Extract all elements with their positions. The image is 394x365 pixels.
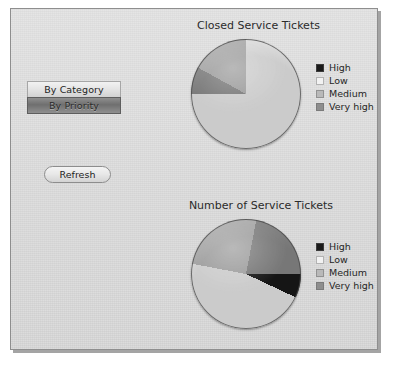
pie-slices-number bbox=[191, 219, 301, 329]
chart-title-number-of-service-tickets: Number of Service Tickets bbox=[161, 199, 361, 212]
legend-swatch-high bbox=[316, 64, 324, 72]
legend-label-high: High bbox=[329, 241, 351, 252]
app-window: By Category By Priority Refresh Closed S… bbox=[0, 0, 394, 365]
grouping-toggle-group[interactable]: By Category By Priority bbox=[27, 81, 121, 114]
legend-item-low: Low bbox=[316, 253, 374, 266]
toggle-by-category[interactable]: By Category bbox=[27, 81, 121, 98]
legend-swatch-high bbox=[316, 243, 324, 251]
pie-closed-service-tickets bbox=[191, 39, 301, 149]
legend-item-high: High bbox=[316, 61, 374, 74]
chart-closed-service-tickets: Closed Service Tickets High Low Medium bbox=[161, 13, 376, 173]
legend-swatch-very-high bbox=[316, 103, 324, 111]
legend-item-very-high: Very high bbox=[316, 100, 374, 113]
legend-item-medium: Medium bbox=[316, 266, 374, 279]
chart-number-of-service-tickets: Number of Service Tickets High Low Mediu… bbox=[161, 194, 376, 349]
legend-number-of-service-tickets: High Low Medium Very high bbox=[316, 240, 374, 292]
legend-label-very-high: Very high bbox=[329, 280, 374, 291]
refresh-button[interactable]: Refresh bbox=[44, 166, 111, 183]
legend-swatch-medium bbox=[316, 269, 324, 277]
dashboard-panel: By Category By Priority Refresh Closed S… bbox=[10, 8, 378, 350]
legend-label-low: Low bbox=[329, 75, 348, 86]
pie-slices-closed bbox=[191, 39, 301, 149]
legend-swatch-low bbox=[316, 77, 324, 85]
legend-item-low: Low bbox=[316, 74, 374, 87]
legend-item-high: High bbox=[316, 240, 374, 253]
legend-closed-service-tickets: High Low Medium Very high bbox=[316, 61, 374, 113]
chart-title-closed-service-tickets: Closed Service Tickets bbox=[161, 19, 356, 32]
legend-swatch-medium bbox=[316, 90, 324, 98]
legend-label-medium: Medium bbox=[329, 88, 367, 99]
legend-label-medium: Medium bbox=[329, 267, 367, 278]
legend-label-very-high: Very high bbox=[329, 101, 374, 112]
pie-number-of-service-tickets bbox=[191, 219, 301, 329]
legend-label-low: Low bbox=[329, 254, 348, 265]
toggle-by-priority[interactable]: By Priority bbox=[27, 97, 121, 114]
legend-label-high: High bbox=[329, 62, 351, 73]
legend-item-medium: Medium bbox=[316, 87, 374, 100]
legend-swatch-very-high bbox=[316, 282, 324, 290]
legend-item-very-high: Very high bbox=[316, 279, 374, 292]
legend-swatch-low bbox=[316, 256, 324, 264]
